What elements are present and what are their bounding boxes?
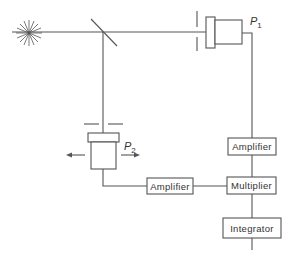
p1-lead	[242, 33, 252, 138]
arrow-left-icon	[66, 153, 85, 158]
p1-label: P1	[250, 15, 262, 30]
star-burst-light-source-icon	[16, 20, 42, 46]
amplifier-1-label: Amplifier	[232, 141, 272, 152]
detector-p2-flange	[88, 133, 119, 142]
multiplier-label: Multiplier	[231, 180, 272, 191]
p2-lead	[103, 169, 147, 186]
amplifier-1-block: Amplifier	[228, 138, 276, 155]
correlation-diagram: P1 P2 Amplifier Amplifier Multiplie	[0, 0, 294, 257]
detector-p1-body	[215, 20, 242, 44]
integrator-label: Integrator	[230, 223, 274, 234]
integrator-block: Integrator	[223, 218, 281, 238]
amplifier-2-block: Amplifier	[147, 178, 193, 194]
multiplier-block: Multiplier	[227, 177, 276, 194]
detector-p2: P2	[88, 133, 136, 169]
detector-p1-flange	[206, 17, 215, 48]
detector-p2-body	[91, 142, 116, 169]
amplifier-2-label: Amplifier	[150, 181, 190, 192]
detector-p1: P1	[206, 15, 262, 48]
